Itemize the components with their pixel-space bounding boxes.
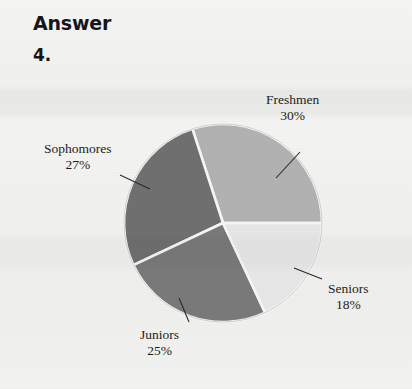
pie-label-juniors-name: Juniors <box>140 327 179 343</box>
pie-label-sophomores-name: Sophomores <box>44 141 112 157</box>
pie-label-seniors-percent: 18% <box>328 297 369 313</box>
pie-label-seniors: Seniors 18% <box>328 281 369 313</box>
pie-label-juniors: Juniors 25% <box>140 327 179 359</box>
pie-label-seniors-name: Seniors <box>328 281 369 297</box>
pie-chart: Freshmen 30% Sophomores 27% Juniors 25% … <box>0 0 412 389</box>
pie-label-freshmen: Freshmen 30% <box>266 92 319 124</box>
pie-label-freshmen-percent: 30% <box>266 108 319 124</box>
pie-label-juniors-percent: 25% <box>140 343 179 359</box>
pie-chart-graphic <box>0 0 412 389</box>
pie-label-sophomores-percent: 27% <box>44 157 112 173</box>
pie-label-sophomores: Sophomores 27% <box>44 141 112 173</box>
pie-label-freshmen-name: Freshmen <box>266 92 319 108</box>
scanned-page: Answer 4. Freshmen 30% Sopho <box>0 0 412 389</box>
